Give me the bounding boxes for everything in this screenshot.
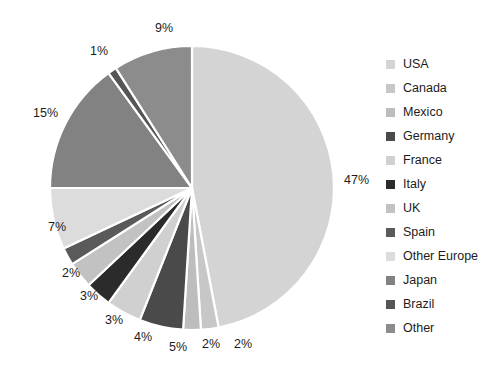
pie-plot-area: 47%2%2%5%4%3%3%2%7%15%1%9% bbox=[0, 0, 370, 382]
slice-value-label: 4% bbox=[134, 331, 152, 344]
legend-item-label: Other Europe bbox=[403, 250, 478, 263]
legend-swatch-icon bbox=[386, 60, 395, 69]
legend-item[interactable]: Japan bbox=[386, 268, 490, 292]
chart-legend: USACanadaMexicoGermanyFranceItalyUKSpain… bbox=[386, 52, 490, 340]
legend-item-label: Spain bbox=[403, 226, 435, 239]
legend-item[interactable]: Mexico bbox=[386, 100, 490, 124]
legend-swatch-icon bbox=[386, 300, 395, 309]
pie-chart-figure: 47%2%2%5%4%3%3%2%7%15%1%9% USACanadaMexi… bbox=[0, 0, 494, 382]
legend-item[interactable]: USA bbox=[386, 52, 490, 76]
legend-item[interactable]: Spain bbox=[386, 220, 490, 244]
legend-swatch-icon bbox=[386, 204, 395, 213]
legend-swatch-icon bbox=[386, 228, 395, 237]
legend-item[interactable]: Italy bbox=[386, 172, 490, 196]
legend-item[interactable]: Brazil bbox=[386, 292, 490, 316]
slice-value-label: 15% bbox=[33, 107, 58, 120]
legend-swatch-icon bbox=[386, 84, 395, 93]
slice-value-label: 9% bbox=[155, 22, 173, 35]
legend-swatch-icon bbox=[386, 324, 395, 333]
slice-value-label: 2% bbox=[202, 338, 220, 351]
legend-swatch-icon bbox=[386, 180, 395, 189]
slice-value-label: 5% bbox=[169, 341, 187, 354]
legend-item-label: Brazil bbox=[403, 298, 434, 311]
legend-swatch-icon bbox=[386, 156, 395, 165]
legend-item[interactable]: Other Europe bbox=[386, 244, 490, 268]
pie-slice[interactable] bbox=[192, 46, 334, 327]
legend-item-label: Germany bbox=[403, 130, 454, 143]
legend-item-label: Italy bbox=[403, 178, 426, 191]
legend-item-label: France bbox=[403, 154, 442, 167]
legend-item[interactable]: Germany bbox=[386, 124, 490, 148]
slice-value-label: 47% bbox=[344, 174, 369, 187]
pie-slices-group bbox=[50, 46, 334, 330]
legend-item[interactable]: France bbox=[386, 148, 490, 172]
slice-value-label: 1% bbox=[90, 45, 108, 58]
slice-value-label: 3% bbox=[105, 314, 123, 327]
legend-item-label: UK bbox=[403, 202, 420, 215]
legend-item-label: Other bbox=[403, 322, 434, 335]
legend-item-label: Mexico bbox=[403, 106, 443, 119]
legend-item-label: Japan bbox=[403, 274, 437, 287]
legend-item-label: USA bbox=[403, 58, 429, 71]
legend-swatch-icon bbox=[386, 132, 395, 141]
legend-swatch-icon bbox=[386, 276, 395, 285]
pie-svg bbox=[0, 0, 370, 382]
legend-item[interactable]: Canada bbox=[386, 76, 490, 100]
slice-value-label: 2% bbox=[234, 338, 252, 351]
legend-swatch-icon bbox=[386, 252, 395, 261]
slice-value-label: 2% bbox=[62, 267, 80, 280]
legend-item[interactable]: UK bbox=[386, 196, 490, 220]
slice-value-label: 3% bbox=[80, 290, 98, 303]
legend-item-label: Canada bbox=[403, 82, 447, 95]
slice-value-label: 7% bbox=[48, 221, 66, 234]
legend-item[interactable]: Other bbox=[386, 316, 490, 340]
legend-swatch-icon bbox=[386, 108, 395, 117]
